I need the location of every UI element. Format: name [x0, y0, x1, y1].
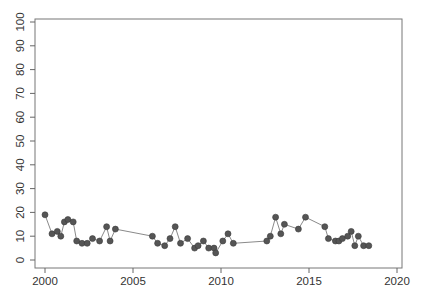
data-point — [273, 214, 279, 220]
y-tick-label: 50 — [14, 135, 26, 148]
data-markers — [42, 212, 372, 256]
y-tick-label: 40 — [14, 158, 26, 171]
data-point — [213, 250, 219, 256]
data-point — [267, 233, 273, 239]
data-point — [90, 236, 96, 242]
data-point — [278, 231, 284, 237]
x-axis: 20002005201020152020 — [32, 268, 410, 287]
data-point — [167, 236, 173, 242]
data-point — [70, 219, 76, 225]
x-tick-label: 2010 — [208, 275, 234, 287]
data-point — [230, 240, 236, 246]
x-tick-label: 2015 — [296, 275, 322, 287]
data-point — [178, 240, 184, 246]
y-tick-label: 10 — [14, 230, 26, 243]
y-tick-label: 0 — [14, 257, 26, 263]
x-tick-label: 2005 — [120, 275, 146, 287]
data-point — [84, 240, 90, 246]
data-point — [112, 226, 118, 232]
data-point — [200, 238, 206, 244]
y-tick-label: 100 — [14, 12, 26, 31]
data-point — [195, 243, 201, 249]
y-tick-label: 60 — [14, 111, 26, 124]
data-point — [303, 214, 309, 220]
y-tick-label: 20 — [14, 206, 26, 219]
data-point — [97, 238, 103, 244]
x-tick-label: 2020 — [384, 275, 410, 287]
y-axis: 0102030405060708090100 — [14, 12, 35, 263]
data-point — [325, 236, 331, 242]
data-point — [366, 243, 372, 249]
data-point — [352, 243, 358, 249]
data-point — [281, 221, 287, 227]
data-point — [155, 240, 161, 246]
y-tick-label: 90 — [14, 39, 26, 52]
x-tick-label: 2000 — [32, 275, 58, 287]
data-point — [172, 224, 178, 230]
data-point — [220, 238, 226, 244]
data-point — [295, 226, 301, 232]
y-tick-label: 80 — [14, 63, 26, 76]
plot-frame — [35, 19, 402, 268]
data-point — [58, 233, 64, 239]
data-point — [149, 233, 155, 239]
data-point — [185, 236, 191, 242]
data-point — [355, 233, 361, 239]
data-point — [42, 212, 48, 218]
line-chart: 0102030405060708090100 20002005201020152… — [0, 0, 426, 304]
data-point — [322, 224, 328, 230]
y-tick-label: 70 — [14, 87, 26, 100]
y-tick-label: 30 — [14, 182, 26, 195]
data-point — [225, 231, 231, 237]
data-point — [104, 224, 110, 230]
data-point — [162, 243, 168, 249]
data-point — [348, 228, 354, 234]
data-point — [107, 238, 113, 244]
